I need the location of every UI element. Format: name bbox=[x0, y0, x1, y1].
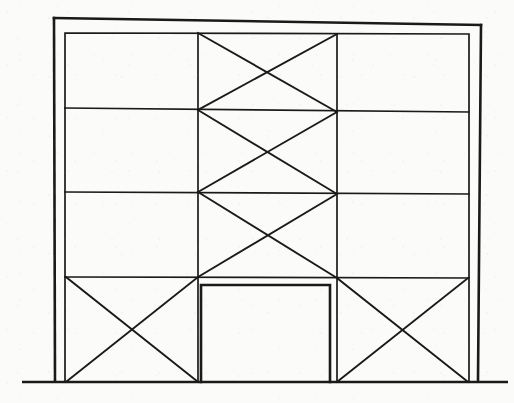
brace-group bbox=[66, 33, 468, 382]
floor-beam-level-2 bbox=[65, 277, 469, 278]
floor-beam-level-4 bbox=[65, 108, 469, 112]
floor-beam-group bbox=[65, 108, 469, 278]
outer-right-column bbox=[478, 25, 481, 381]
door-opening-outline bbox=[201, 285, 330, 382]
outer-top-beam bbox=[54, 18, 481, 25]
inner-frame-rect bbox=[65, 33, 469, 382]
drawing-canvas bbox=[0, 0, 514, 403]
floor-beam-level-3 bbox=[65, 192, 469, 194]
brace-center-story3-b bbox=[198, 112, 337, 192]
elevation-drawing bbox=[0, 0, 514, 403]
outer-left-column bbox=[54, 18, 55, 381]
inner-frame-group bbox=[65, 33, 469, 382]
door-opening-group bbox=[201, 285, 330, 382]
